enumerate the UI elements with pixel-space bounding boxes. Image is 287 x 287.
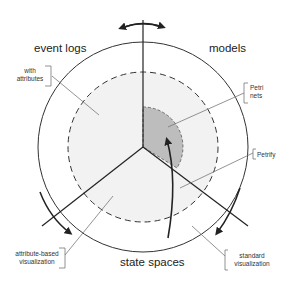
annotation-line: attributes bbox=[14, 75, 46, 83]
annotation-line: nets bbox=[250, 92, 263, 100]
annotation-line: standard bbox=[230, 252, 274, 260]
label-event-logs: event logs bbox=[34, 42, 86, 54]
annotation-line: with bbox=[14, 67, 46, 75]
annotation-with-attributes: with attributes bbox=[14, 67, 46, 83]
annotation-line: attribute-based bbox=[12, 250, 62, 258]
diagram-canvas: event logs models state spaces with attr… bbox=[0, 0, 287, 287]
bracket-standard bbox=[225, 250, 228, 270]
curved-arrow-left-icon bbox=[40, 192, 70, 233]
bracket-petrify bbox=[253, 149, 256, 159]
label-state-spaces: state spaces bbox=[120, 256, 185, 268]
bracket-petri-nets bbox=[244, 83, 248, 103]
annotation-line: visualization bbox=[230, 260, 274, 268]
annotation-line: visualization bbox=[12, 258, 62, 266]
leader-attribute-based bbox=[65, 196, 113, 255]
annotation-petrify: Petrify bbox=[257, 151, 275, 159]
annotation-attribute-based-visualization: attribute-based visualization bbox=[12, 250, 62, 266]
annotation-line: Petri bbox=[250, 84, 263, 92]
annotation-standard-visualization: standard visualization bbox=[230, 252, 274, 268]
annotation-line: Petrify bbox=[257, 151, 275, 159]
rotate-arrow-left-icon bbox=[121, 24, 161, 28]
annotation-petri-nets: Petri nets bbox=[250, 84, 263, 100]
label-models: models bbox=[209, 42, 246, 54]
leader-standard bbox=[192, 226, 225, 256]
